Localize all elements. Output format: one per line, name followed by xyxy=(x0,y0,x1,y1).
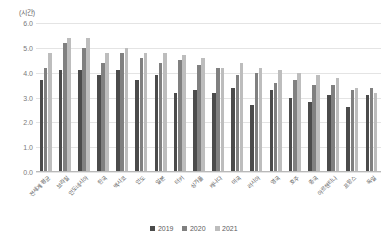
x-axis-label: 싱가폴 xyxy=(189,174,205,190)
y-axis-tick-label: 1.0 xyxy=(3,144,33,151)
x-axis-label: 인도 xyxy=(134,174,147,187)
y-axis-tick-label: 6.0 xyxy=(3,20,33,27)
bar xyxy=(216,68,220,172)
bar xyxy=(86,38,90,172)
bar xyxy=(327,95,331,172)
bar xyxy=(193,90,197,172)
bar xyxy=(236,75,240,172)
bar xyxy=(231,88,235,172)
bar xyxy=(351,90,355,172)
bar xyxy=(78,70,82,172)
x-axis-label-cell: 한국 xyxy=(94,173,113,221)
x-axis-label: 호주 xyxy=(288,174,301,187)
bar-group xyxy=(343,23,362,172)
legend-swatch-icon xyxy=(182,226,187,231)
x-axis-label-cell: 싱가폴 xyxy=(189,173,208,221)
bar-group xyxy=(362,23,381,172)
bar xyxy=(259,68,263,172)
bar xyxy=(336,78,340,172)
bar-group xyxy=(74,23,93,172)
x-axis-label: 캐나다 xyxy=(208,174,224,190)
bar xyxy=(135,80,139,172)
bar-group xyxy=(209,23,228,172)
x-axis-label-cell: 러시아 xyxy=(247,173,266,221)
legend-label: 2021 xyxy=(222,225,238,232)
bar xyxy=(82,48,86,172)
bar-group xyxy=(189,23,208,172)
bar xyxy=(293,80,297,172)
x-axis-label: 독일 xyxy=(365,174,378,187)
y-axis-tick-label: 2.0 xyxy=(3,119,33,126)
bar xyxy=(197,65,201,172)
x-axis-label-cell: 인도네시아 xyxy=(74,173,93,221)
x-axis-label: 브라질 xyxy=(54,174,70,190)
bar xyxy=(366,95,370,172)
bar xyxy=(316,75,320,172)
bar xyxy=(201,58,205,172)
bar xyxy=(101,63,105,172)
x-axis-line xyxy=(36,171,381,172)
x-axis-label: 터키 xyxy=(173,174,186,187)
plot-area xyxy=(36,23,381,172)
legend-item[interactable]: 2019 xyxy=(150,225,173,232)
bar-group xyxy=(285,23,304,172)
bar xyxy=(270,90,274,172)
bar xyxy=(355,88,359,172)
bar xyxy=(178,60,182,172)
bar xyxy=(278,70,282,172)
bar xyxy=(250,105,254,172)
x-axis-label: 중국 xyxy=(307,174,320,187)
y-axis-tick-label: 4.0 xyxy=(3,69,33,76)
bar xyxy=(97,75,101,172)
bar xyxy=(44,68,48,172)
bar xyxy=(105,53,109,172)
x-axis-label: 프랑스 xyxy=(342,174,358,190)
bar-group xyxy=(324,23,343,172)
x-axis-label-cell: 멕시코 xyxy=(113,173,132,221)
bar xyxy=(140,58,144,172)
bar-group xyxy=(170,23,189,172)
bar xyxy=(116,70,120,172)
x-axis-label-cell: 터키 xyxy=(170,173,189,221)
bar xyxy=(120,53,124,172)
y-axis-unit-label: (시간) xyxy=(19,7,35,17)
bar xyxy=(308,102,312,172)
bar xyxy=(346,107,350,172)
legend-label: 2020 xyxy=(190,225,206,232)
bar xyxy=(240,63,244,172)
bar-group xyxy=(94,23,113,172)
x-axis-label: 러시아 xyxy=(246,174,262,190)
x-axis-label-cell: 전세계 평균 xyxy=(36,173,55,221)
x-axis-label: 미국 xyxy=(230,174,243,187)
legend-swatch-icon xyxy=(215,226,220,231)
y-axis-tick-label: 5.0 xyxy=(3,44,33,51)
bar-group xyxy=(36,23,55,172)
bar xyxy=(159,63,163,172)
bar xyxy=(312,85,316,172)
legend-item[interactable]: 2021 xyxy=(215,225,238,232)
x-axis-label-cell: 일본 xyxy=(151,173,170,221)
x-axis-label-cell: 프랑스 xyxy=(343,173,362,221)
bar xyxy=(40,80,44,172)
bar xyxy=(289,98,293,173)
x-axis-category-labels: 전세계 평균브라질인도네시아한국멕시코인도일본터키싱가폴캐나다미국러시아영국호주… xyxy=(36,173,381,221)
bar-group xyxy=(132,23,151,172)
bar xyxy=(221,68,225,172)
bar xyxy=(155,75,159,172)
bar-group xyxy=(151,23,170,172)
x-axis-label-cell: 미국 xyxy=(228,173,247,221)
bar xyxy=(63,43,67,172)
x-axis-label: 일본 xyxy=(154,174,167,187)
x-axis-label-cell: 영국 xyxy=(266,173,285,221)
y-axis-tick-label: 0.0 xyxy=(3,169,33,176)
y-axis-tick-label: 3.0 xyxy=(3,94,33,101)
bar xyxy=(274,83,278,172)
legend-item[interactable]: 2020 xyxy=(182,225,205,232)
bar-series-container xyxy=(36,23,381,172)
bar xyxy=(67,38,71,172)
bar xyxy=(59,70,63,172)
bar-group xyxy=(247,23,266,172)
x-axis-label-cell: 호주 xyxy=(285,173,304,221)
x-axis-label-cell: 아르헨티나 xyxy=(324,173,343,221)
bar xyxy=(374,93,378,172)
